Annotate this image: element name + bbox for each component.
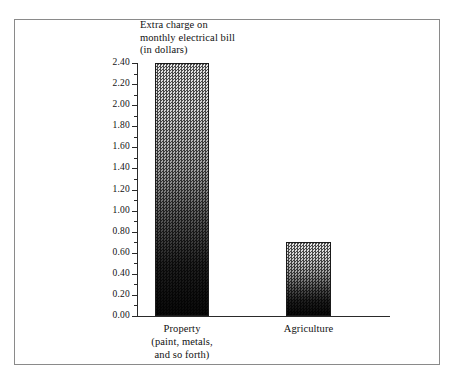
y-minor-tick-mark <box>134 305 138 306</box>
y-minor-tick-mark <box>134 200 138 201</box>
y-tick-label: 2.00 <box>98 100 130 110</box>
y-tick-label: 1.40 <box>98 163 130 173</box>
chart-figure: Extra charge on monthly electrical bill … <box>0 0 453 385</box>
y-tick-label: 2.40 <box>98 58 130 68</box>
y-minor-tick-mark <box>134 263 138 264</box>
y-minor-tick-mark <box>134 116 138 117</box>
y-minor-tick-mark <box>134 74 138 75</box>
y-tick-label: 0.20 <box>98 290 130 300</box>
y-tick-label: 1.00 <box>98 206 130 216</box>
y-tick-mark <box>132 168 138 169</box>
y-tick-mark <box>132 84 138 85</box>
y-minor-tick-mark <box>134 95 138 96</box>
y-tick-mark <box>132 147 138 148</box>
y-tick-mark <box>132 253 138 254</box>
y-minor-tick-mark <box>134 221 138 222</box>
x-category-label-agriculture: Agriculture <box>249 322 369 335</box>
x-category-label-property: Property (paint, metals, and so forth) <box>122 322 242 361</box>
y-minor-tick-mark <box>134 284 138 285</box>
y-minor-tick-mark <box>134 158 138 159</box>
y-tick-label: 1.20 <box>98 185 130 195</box>
y-minor-tick-mark <box>134 242 138 243</box>
y-tick-mark <box>132 295 138 296</box>
y-tick-mark <box>132 232 138 233</box>
y-tick-label: 0.00 <box>98 311 130 321</box>
plot-area: Extra charge on monthly electrical bill … <box>0 0 453 385</box>
y-tick-mark <box>132 190 138 191</box>
y-tick-mark <box>132 105 138 106</box>
y-tick-mark <box>132 126 138 127</box>
y-tick-label: 0.80 <box>98 227 130 237</box>
y-tick-mark <box>132 274 138 275</box>
bar-agriculture <box>286 242 331 316</box>
y-tick-label: 1.60 <box>98 142 130 152</box>
y-tick-mark <box>132 211 138 212</box>
y-tick-mark <box>132 316 138 317</box>
x-axis-line <box>137 316 390 317</box>
y-tick-mark <box>132 63 138 64</box>
y-tick-label: 2.20 <box>98 79 130 89</box>
y-minor-tick-mark <box>134 179 138 180</box>
y-axis-title: Extra charge on monthly electrical bill … <box>140 19 330 57</box>
y-tick-label: 0.60 <box>98 248 130 258</box>
y-tick-label: 0.40 <box>98 269 130 279</box>
bar-property <box>155 63 209 316</box>
y-minor-tick-mark <box>134 137 138 138</box>
y-tick-label: 1.80 <box>98 121 130 131</box>
